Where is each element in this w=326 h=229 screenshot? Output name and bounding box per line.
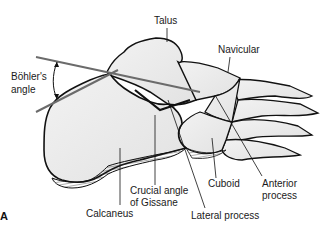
label-cuboid: Cuboid [208,178,240,189]
label-bohlers-angle-2: angle [11,84,35,95]
label-crucial-angle-1: Crucial angle [130,185,188,196]
label-anterior-process-1: Anterior [262,178,297,189]
label-talus: Talus [154,15,177,26]
label-navicular: Navicular [218,44,260,55]
label-anterior-process-2: process [262,190,297,201]
label-calcaneus: Calcaneus [86,208,133,219]
panel-label: A [0,210,8,222]
label-lateral-process: Lateral process [191,210,259,221]
foot-anatomy-diagram: Talus Navicular Böhler's angle Calcaneus… [0,0,326,229]
bohler-angle-arc [53,62,57,99]
label-bohlers-angle-1: Böhler's [11,71,47,82]
label-crucial-angle-2: of Gissane [130,197,178,208]
